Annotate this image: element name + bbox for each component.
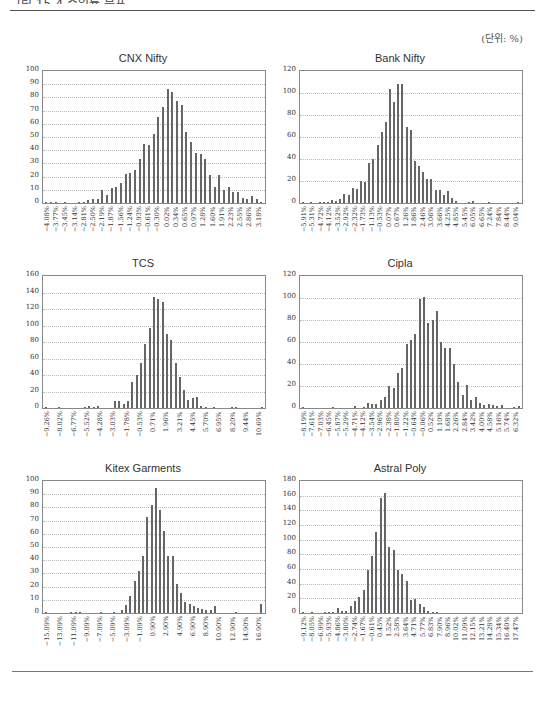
histogram-bar	[419, 604, 421, 613]
histogram-bar	[335, 201, 337, 203]
y-tick-label: 80	[274, 548, 296, 556]
x-tick-label: −9.09%	[83, 616, 91, 646]
histogram-bar	[457, 382, 459, 408]
histogram-bar	[58, 407, 60, 408]
histogram-bar	[235, 407, 237, 408]
histogram-bar	[422, 172, 424, 203]
histogram-bar	[237, 192, 239, 203]
histogram-bar	[488, 202, 490, 203]
histogram-bar	[397, 373, 399, 408]
y-tick-label: 120	[17, 303, 39, 311]
histogram-bar	[170, 340, 172, 408]
histogram-bar	[75, 612, 77, 613]
histogram-bar	[367, 570, 369, 613]
histogram-bar	[389, 89, 391, 203]
histogram-bar	[142, 556, 144, 613]
x-tick-label: −13.09%	[56, 616, 64, 646]
histogram-bar	[185, 132, 187, 203]
plot-area	[299, 275, 523, 409]
x-tick-label: 12.90%	[229, 616, 237, 646]
x-tick-label: 1.96%	[162, 411, 170, 437]
x-tick-label: −4.28%	[96, 411, 104, 437]
y-tick-label: 100	[17, 320, 39, 328]
y-tick-label: 90	[17, 488, 39, 496]
histogram-bar	[466, 385, 468, 408]
x-tick-label: −3.09%	[123, 616, 131, 646]
y-tick-label: 80	[274, 314, 296, 322]
x-tick-label: −9.12%	[300, 616, 308, 642]
histogram-bar	[440, 342, 442, 408]
y-tick-label: 100	[17, 475, 39, 483]
histogram-bar	[197, 608, 199, 613]
x-tick-label: −0.53%	[376, 206, 384, 232]
y-tick-label: 100	[274, 87, 296, 95]
chart-title: TCS	[18, 257, 268, 269]
x-tick-label: 3.06%	[427, 206, 435, 232]
y-tick-label: 140	[274, 504, 296, 512]
x-tick-label: 3.18%	[255, 206, 263, 232]
x-tick-label: −4.12%	[325, 206, 333, 232]
x-tick-label: −1.78%	[123, 411, 131, 437]
chart-cnx-nifty: CNX Nifty0102030405060708090100−4.08%−3.…	[18, 52, 268, 257]
histogram-bar	[55, 202, 57, 203]
x-tick-label: 4.90%	[176, 616, 184, 646]
y-tick-label: 40	[274, 358, 296, 366]
histogram-bar	[100, 612, 102, 613]
histogram-bar	[331, 200, 333, 203]
histogram-bar	[79, 612, 81, 613]
histogram-bar	[223, 190, 225, 203]
histogram-bar	[136, 375, 138, 408]
histogram-bar	[354, 601, 356, 613]
histogram-bar	[129, 173, 131, 203]
y-tick-label: 20	[274, 592, 296, 600]
histogram-bar	[324, 612, 326, 613]
x-tick-label: −0.93%	[135, 206, 143, 232]
x-tick-label: −1.13%	[368, 206, 376, 232]
histogram-bar	[435, 190, 437, 203]
x-tick-label: 17.47%	[512, 616, 520, 642]
histogram-bar	[50, 202, 52, 203]
histogram-bar	[246, 199, 248, 203]
y-tick-label: 120	[274, 270, 296, 278]
histogram-bar	[427, 611, 429, 613]
x-tick-label: −1.73%	[359, 206, 367, 232]
x-tick-label: −1.80%	[393, 411, 401, 437]
histogram-bar	[348, 195, 350, 203]
histogram-bar	[175, 363, 177, 408]
histogram-bar	[260, 604, 262, 613]
histogram-bar	[138, 571, 140, 613]
x-tick-label: 6.90%	[189, 616, 197, 646]
x-tick-label: −6.99%	[317, 616, 325, 642]
x-tick-label: −1.87%	[107, 206, 115, 232]
x-axis-labels: −9.12%−8.05%−6.99%−5.93%−4.86%−3.80%−2.7…	[300, 616, 520, 642]
histogram-bar	[443, 195, 445, 203]
x-tick-label: 2.90%	[162, 616, 170, 646]
y-tick-label: 0	[274, 607, 296, 615]
x-axis-labels: −15.09%−13.09%−11.09%−9.09%−7.09%−5.09%−…	[43, 616, 263, 646]
x-tick-label: −1.09%	[136, 616, 144, 646]
y-tick-label: 60	[274, 336, 296, 344]
x-tick-label: −7.61%	[308, 411, 316, 437]
x-tick-label: 2.86%	[245, 206, 253, 232]
chart-bank-nifty: Bank Nifty020406080100120−5.91%−5.31%−4.…	[275, 52, 525, 257]
histogram-bar	[393, 388, 395, 408]
x-tick-label: −8.05%	[308, 616, 316, 642]
histogram-bar	[70, 612, 72, 613]
histogram-bar	[204, 159, 206, 203]
histogram-bar	[319, 202, 321, 203]
x-tick-label: −4.08%	[43, 206, 51, 232]
y-tick-label: 160	[274, 490, 296, 498]
histogram-bar	[84, 407, 86, 408]
x-tick-label: −6.77%	[70, 411, 78, 437]
x-tick-label: 0.34%	[172, 206, 180, 232]
histogram-bar	[149, 328, 151, 408]
x-axis-labels: −5.91%−5.31%−4.72%−4.12%−3.52%−2.92%−2.3…	[300, 206, 520, 232]
y-tick-label: 20	[17, 171, 39, 179]
x-tick-label: 1.86%	[410, 206, 418, 232]
y-tick-label: 0	[17, 607, 39, 615]
histogram-bar	[106, 195, 108, 203]
histogram-bar	[397, 570, 399, 613]
x-tick-label: −2.38%	[385, 411, 393, 437]
histogram-bar	[213, 407, 215, 408]
histogram-bar	[172, 556, 174, 613]
